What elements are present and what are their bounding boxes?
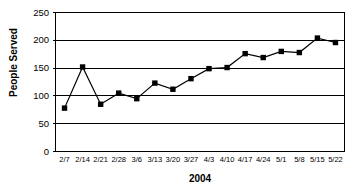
plot-background <box>56 13 345 152</box>
data-point-marker <box>224 65 229 70</box>
x-tick-label: 2/21 <box>93 155 108 165</box>
x-tick-label: 5/1 <box>276 155 286 165</box>
data-point-marker <box>152 80 157 85</box>
x-tick-label: 2/14 <box>75 155 90 165</box>
x-tick-label: 3/20 <box>166 155 181 165</box>
x-tick-label: 2/7 <box>59 155 69 165</box>
x-tick-label: 3/6 <box>132 155 142 165</box>
x-tick-label: 4/10 <box>220 155 235 165</box>
data-point-marker <box>297 50 302 55</box>
data-point-marker <box>315 35 320 40</box>
x-tick-label: 5/8 <box>294 155 304 165</box>
line-chart: People Served 050100150200250 2/72/142/2… <box>0 0 355 195</box>
data-point-marker <box>242 51 247 56</box>
x-tick-label: 5/22 <box>328 155 343 165</box>
x-tick-label: 3/27 <box>184 155 199 165</box>
x-tick-label: 3/13 <box>148 155 163 165</box>
x-tick-label: 4/24 <box>256 155 271 165</box>
x-tick-label: 4/3 <box>204 155 214 165</box>
x-tick-label: 5/15 <box>310 155 325 165</box>
data-point-marker <box>116 90 121 95</box>
data-point-marker <box>206 66 211 71</box>
data-point-marker <box>333 40 338 45</box>
x-tick-label: 2/28 <box>111 155 126 165</box>
data-point-marker <box>134 96 139 101</box>
data-point-marker <box>170 87 175 92</box>
data-point-marker <box>261 55 266 60</box>
x-tick-label: 4/17 <box>238 155 253 165</box>
data-point-marker <box>279 49 284 54</box>
data-point-marker <box>80 64 85 69</box>
data-point-marker <box>188 76 193 81</box>
x-axis-tick-labels: 2/72/142/212/283/63/133/203/274/34/104/1… <box>0 155 355 169</box>
x-axis-title: 2004 <box>55 173 345 185</box>
data-point-marker <box>62 105 67 110</box>
data-point-marker <box>98 102 103 107</box>
